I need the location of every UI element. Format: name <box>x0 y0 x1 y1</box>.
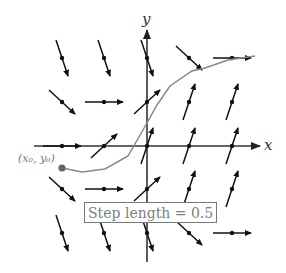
slope-point-dot <box>187 100 191 104</box>
y-axis-label: y <box>142 10 150 28</box>
slope-point-dot <box>102 100 106 104</box>
slope-point-dot <box>60 231 64 235</box>
start-point-marker <box>58 164 65 171</box>
slope-point-dot <box>145 56 149 60</box>
slope-point-dot <box>230 187 234 191</box>
slope-point-dot <box>102 56 106 60</box>
slope-point-dot <box>60 56 64 60</box>
slope-point-dot <box>102 144 106 148</box>
slope-point-dot <box>145 231 149 235</box>
x-axis-label: x <box>264 136 272 154</box>
slope-point-dot <box>230 100 234 104</box>
slope-point-dot <box>145 100 149 104</box>
slope-point-dot <box>102 231 106 235</box>
slope-point-dot <box>60 100 64 104</box>
slope-point-dot <box>187 187 191 191</box>
slope-point-dot <box>145 144 149 148</box>
slope-point-dot <box>187 231 191 235</box>
start-point-label: (x₀, y₀) <box>18 152 55 165</box>
slope-point-dot <box>102 187 106 191</box>
slope-point-dot <box>145 187 149 191</box>
slope-point-dot <box>60 144 64 148</box>
slope-point-dot <box>230 144 234 148</box>
slope-point-dot <box>60 187 64 191</box>
step-length-label: Step length = 0.5 <box>84 202 217 223</box>
slope-field-plot <box>0 0 286 273</box>
slope-point-dot <box>187 144 191 148</box>
euler-approximation-curve <box>62 56 255 172</box>
slope-point-dot <box>230 231 234 235</box>
slope-field-figure: y x (x₀, y₀) Step length = 0.5 <box>0 0 286 273</box>
slope-point-dot <box>187 56 191 60</box>
